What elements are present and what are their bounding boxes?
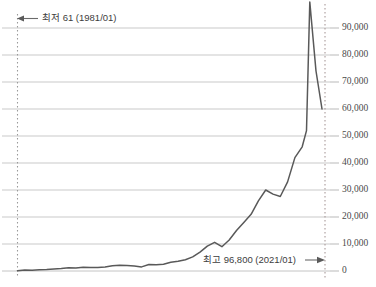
max-annotation-label: 최고 96,800 (2021/01) (203, 255, 296, 265)
min-annotation-arrow (17, 16, 38, 22)
y-tick-label-90000: 90,000 (342, 23, 368, 33)
max-annotation-arrow (305, 257, 325, 263)
min-arrow-head-icon (17, 16, 24, 22)
y-tick-label-40000: 40,000 (342, 158, 368, 168)
y-tick-label-70000: 70,000 (342, 77, 368, 87)
y-tick-label-0: 0 (342, 266, 347, 276)
y-tick-label-80000: 80,000 (342, 50, 368, 60)
min-annotation-label: 최저 61 (1981/01) (42, 13, 117, 23)
y-axis-tick-marks (330, 28, 339, 271)
line-chart: 90,000 80,000 70,000 60,000 50,000 40,00… (0, 0, 376, 287)
y-tick-label-60000: 60,000 (342, 104, 368, 114)
y-tick-label-20000: 20,000 (342, 212, 368, 222)
y-tick-label-30000: 30,000 (342, 185, 368, 195)
y-tick-label-10000: 10,000 (342, 239, 368, 249)
gridlines (2, 28, 330, 271)
marker-lines (18, 4, 326, 278)
chart-plot-area (0, 0, 376, 287)
y-tick-label-50000: 50,000 (342, 131, 368, 141)
max-arrow-head-icon (317, 257, 325, 263)
